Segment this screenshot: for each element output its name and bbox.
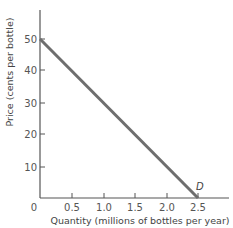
x-axis-title: Quantity (millions of bottles per year) [50,215,229,226]
demand-curve-label: D [196,181,204,192]
x-tick-label: 2.5 [190,202,206,213]
x-ticks [72,193,198,198]
x-tick-label: 0.5 [64,202,80,213]
y-tick-label: 50 [24,34,37,45]
y-ticks [40,39,45,167]
demand-curve [40,39,198,198]
x-tick-label: 2.0 [159,202,175,213]
x-tick-label: 1.0 [96,202,112,213]
x-tick-label: 1.5 [127,202,143,213]
y-tick-label: 30 [24,98,37,109]
y-tick-label: 40 [24,65,37,76]
y-tick-label: 10 [24,162,37,173]
x-tick-label: 0 [31,202,37,213]
y-axis-title: Price (cents per bottle) [4,18,15,127]
demand-chart: 50 40 30 20 10 0 0.5 1.0 1.5 2.0 2.5 Qua… [0,0,233,228]
y-tick-label: 20 [24,129,37,140]
